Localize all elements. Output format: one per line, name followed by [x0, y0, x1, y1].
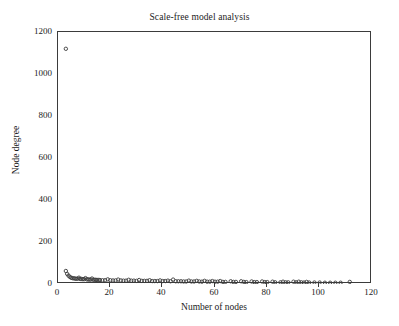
data-point	[334, 281, 337, 284]
data-point	[323, 281, 326, 284]
chart-title: Scale-free model analysis	[0, 12, 399, 22]
x-tick-label-0: 0	[55, 287, 60, 297]
x-axis-label: Number of nodes	[57, 302, 371, 312]
scatter-plot-canvas	[58, 32, 372, 284]
x-tick-label-100: 100	[311, 287, 325, 297]
y-tick-label-1200: 1200	[34, 26, 52, 36]
y-tick-label-200: 200	[39, 236, 53, 246]
plot-area	[57, 31, 371, 283]
x-tick-label-60: 60	[210, 287, 219, 297]
x-tick-label-20: 20	[105, 287, 114, 297]
data-point	[348, 280, 351, 283]
chart-figure: Scale-free model analysis 0 200 400 600 …	[0, 0, 399, 326]
x-tick-label-40: 40	[157, 287, 166, 297]
y-tick-label-800: 800	[39, 110, 53, 120]
data-point	[64, 47, 67, 50]
y-axis-tick-labels: 0 200 400 600 800 1000 1200	[0, 0, 52, 326]
data-point	[328, 281, 331, 284]
x-tick-label-80: 80	[262, 287, 271, 297]
y-tick-label-0: 0	[48, 278, 53, 288]
data-point-markers	[64, 47, 351, 284]
y-tick-label-400: 400	[39, 194, 53, 204]
x-tick-label-120: 120	[364, 287, 378, 297]
y-axis-label: Node degree	[11, 90, 21, 210]
data-point	[339, 281, 342, 284]
y-tick-label-600: 600	[39, 152, 53, 162]
y-tick-label-1000: 1000	[34, 68, 52, 78]
data-point	[313, 281, 316, 284]
